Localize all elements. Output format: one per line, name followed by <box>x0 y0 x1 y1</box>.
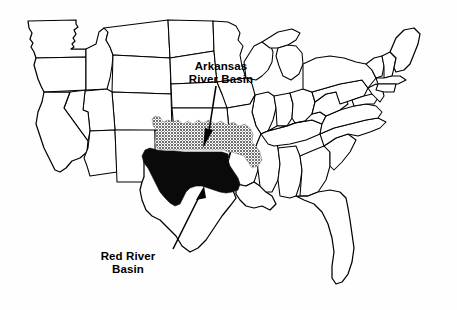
state-oregon <box>34 57 86 92</box>
map-graphic <box>0 0 457 310</box>
state-michigan-upper <box>262 29 300 48</box>
us-river-basin-map: Arkansas River Basin Red River Basin <box>0 0 457 310</box>
state-wyoming <box>112 55 171 94</box>
state-florida <box>296 190 354 284</box>
label-red-river-basin: Red River Basin <box>80 250 176 275</box>
state-alabama <box>278 146 302 198</box>
label-arkansas-river-basin: Arkansas River Basin <box>178 60 264 85</box>
state-montana <box>104 20 170 58</box>
state-indiana <box>274 93 293 126</box>
state-connecticut <box>376 84 396 92</box>
state-massachusetts <box>376 76 406 84</box>
state-arizona <box>84 130 117 176</box>
state-washington <box>28 20 86 58</box>
state-michigan-lower <box>276 45 303 80</box>
state-maine <box>390 28 420 72</box>
state-georgia <box>300 146 330 196</box>
